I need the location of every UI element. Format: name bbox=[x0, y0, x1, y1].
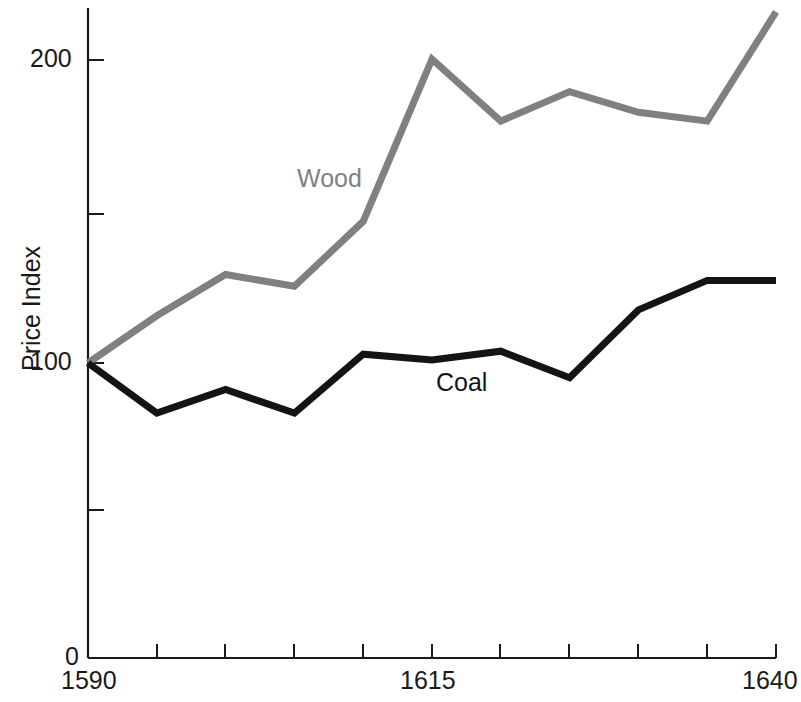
wood-series-label: Wood bbox=[297, 166, 362, 191]
wood-series-line bbox=[88, 12, 776, 363]
x-tick-label-1640: 1640 bbox=[742, 668, 798, 693]
price-index-line-chart: 200 100 0 1590 1615 1640 Price Index Woo… bbox=[0, 0, 801, 702]
x-axis-ticks bbox=[88, 644, 776, 658]
y-axis-title: Price Index bbox=[19, 234, 44, 384]
x-tick-label-1590: 1590 bbox=[61, 668, 117, 693]
plot-area bbox=[0, 0, 801, 702]
y-tick-label-200: 200 bbox=[30, 46, 72, 71]
x-tick-label-1615: 1615 bbox=[400, 668, 456, 693]
coal-series-line bbox=[88, 280, 776, 413]
coal-series-label: Coal bbox=[436, 370, 487, 395]
